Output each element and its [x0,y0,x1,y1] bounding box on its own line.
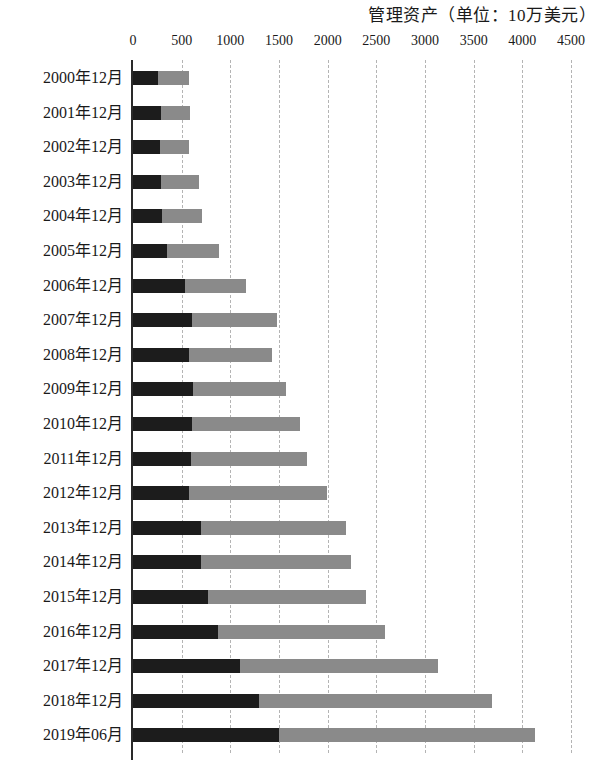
bar-row [133,175,199,189]
bar-segment [133,175,161,189]
bar-segment [158,71,189,85]
bar-segment [167,244,219,258]
category-label: 2011年12月 [44,451,123,467]
x-tick-label: 1500 [265,33,293,49]
bar-segment [133,728,279,742]
bar-row [133,694,492,708]
bar-row [133,71,189,85]
category-label: 2017年12月 [43,658,123,674]
bar-segment [133,417,192,431]
bar-segment [193,382,285,396]
bar-segment [133,209,162,223]
bar-row [133,452,307,466]
bar-segment [201,521,346,535]
bar-segment [133,348,189,362]
bar-row [133,313,277,327]
bar-segment [133,313,192,327]
plot-area [133,60,571,760]
bar-segment [133,452,191,466]
stacked-bar-chart: 管理资产（单位：10万美元） 0500100015002000250030003… [0,0,602,767]
bar-segment [133,625,218,639]
category-label: 2002年12月 [43,139,123,155]
bar-row [133,486,327,500]
bar-row [133,590,366,604]
bar-segment [162,209,202,223]
bar-segment [133,279,185,293]
bar-segment [133,590,208,604]
page-title: 管理资产（单位：10万美元） [368,1,596,26]
bar-segment [133,486,189,500]
category-label: 2003年12月 [43,174,123,190]
bar-segment [133,106,161,120]
bar-row [133,106,190,120]
bar-segment [161,175,199,189]
bar-row [133,659,438,673]
category-label: 2015年12月 [43,589,123,605]
category-label: 2006年12月 [43,278,123,294]
bar-segment [133,659,240,673]
x-tick-label: 2000 [314,33,342,49]
x-tick-label: 1000 [216,33,244,49]
category-label: 2009年12月 [43,381,123,397]
x-tick-label: 2500 [362,33,390,49]
bar-segment [161,106,190,120]
x-tick-label: 4500 [557,33,585,49]
bar-segment [208,590,366,604]
bar-segment [133,555,201,569]
bar-segment [133,382,193,396]
category-axis-labels: 2000年12月2001年12月2002年12月2003年12月2004年12月… [0,60,131,760]
gridline [571,60,572,753]
bar-segment [133,140,160,154]
bar-segment [259,694,493,708]
bar-row [133,728,535,742]
x-axis-tick-labels: 050010001500200025003000350040004500 [0,33,602,51]
x-tick-label: 500 [171,33,192,49]
bar-row [133,625,385,639]
bar-segment [192,417,300,431]
bar-segment [192,313,277,327]
bar-segment [133,521,201,535]
bar-row [133,555,351,569]
category-label: 2007年12月 [43,312,123,328]
category-label: 2005年12月 [43,243,123,259]
category-label: 2000年12月 [43,70,123,86]
x-tick-label: 3000 [411,33,439,49]
bar-segment [191,452,307,466]
category-label: 2010年12月 [43,416,123,432]
bar-segment [185,279,246,293]
bar-row [133,140,189,154]
x-tick-label: 3500 [460,33,488,49]
category-label: 2004年12月 [43,208,123,224]
bar-segment [240,659,438,673]
bar-row [133,417,300,431]
bar-segment [160,140,189,154]
bar-segment [133,71,158,85]
category-label: 2013年12月 [43,520,123,536]
x-tick-label: 4000 [508,33,536,49]
category-label: 2019年06月 [43,727,123,743]
category-label: 2018年12月 [43,693,123,709]
category-label: 2014年12月 [43,554,123,570]
bar-row [133,279,246,293]
bar-segment [201,555,351,569]
bar-row [133,244,219,258]
bar-row [133,209,202,223]
bar-segment [133,244,167,258]
bar-segment [279,728,535,742]
category-label: 2016年12月 [43,624,123,640]
category-label: 2001年12月 [43,105,123,121]
bar-segment [189,486,326,500]
bar-row [133,382,286,396]
category-label: 2012年12月 [43,485,123,501]
x-tick-label: 0 [130,33,137,49]
bar-segment [218,625,385,639]
bar-row [133,348,272,362]
bar-rows [133,60,571,760]
bar-segment [189,348,272,362]
bar-segment [133,694,259,708]
category-label: 2008年12月 [43,347,123,363]
bar-row [133,521,346,535]
